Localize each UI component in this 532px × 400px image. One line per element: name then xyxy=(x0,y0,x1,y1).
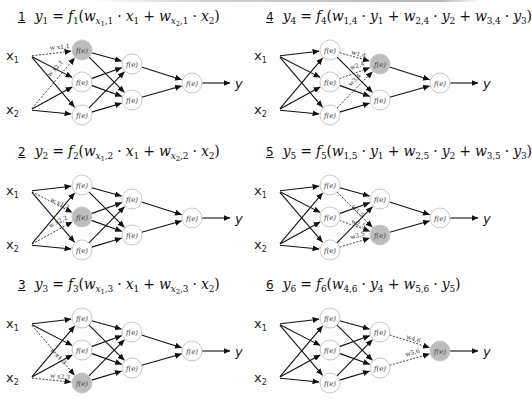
input-label-x2: x2 xyxy=(254,237,267,254)
edge xyxy=(32,325,72,346)
input-label-x2: x2 xyxy=(6,237,19,254)
edge xyxy=(92,371,122,380)
input-label-x1: x1 xyxy=(6,48,19,65)
weight-label: w x1,2 xyxy=(50,196,71,211)
neuron-function-label: f(e) xyxy=(373,196,386,204)
weight-label: w2,4 xyxy=(349,59,365,71)
input-label-x2: x2 xyxy=(6,370,19,387)
neuron-function-label: f(e) xyxy=(75,214,88,222)
neuron-function-label: f(e) xyxy=(323,47,336,55)
neuron-function-label: f(e) xyxy=(75,79,88,87)
neuron-function-label: f(e) xyxy=(373,97,386,105)
output-label-y: y xyxy=(482,344,491,359)
edge xyxy=(91,68,121,79)
edge xyxy=(390,202,430,215)
network-diagram-2: w x1,2w x2,2yf(e)f(e)f(e)f(e)f(e)f(e)x1x… xyxy=(0,135,248,268)
neuron-function-label: f(e) xyxy=(323,79,336,87)
edge xyxy=(92,188,122,196)
edge xyxy=(142,86,182,97)
edge xyxy=(280,57,320,78)
neuron-function-label: f(e) xyxy=(75,347,88,355)
panel-step-6: 6 y6 = f6(w4,6 · y4 + w5,6 · y5) w4,6w5,… xyxy=(248,268,496,400)
edge xyxy=(339,353,369,364)
edge xyxy=(142,335,182,348)
input-label-x1: x1 xyxy=(6,316,19,333)
weight-label: w3,5 xyxy=(349,229,365,240)
edge xyxy=(92,321,122,329)
output-label-y: y xyxy=(234,211,243,226)
edge xyxy=(339,336,369,347)
edge xyxy=(91,336,121,347)
neuron-function-label: f(e) xyxy=(433,215,446,223)
panel-step-3: 3 y3 = f3(wx1,3 · x1 + wx2,3 · x2) w x1,… xyxy=(0,268,248,400)
output-label-y: y xyxy=(482,211,491,226)
input-label-x1: x1 xyxy=(6,183,19,200)
edge xyxy=(280,51,319,56)
edge xyxy=(92,53,122,61)
input-label-x1: x1 xyxy=(254,316,267,333)
neuron-function-label: f(e) xyxy=(323,182,336,190)
edge xyxy=(91,203,121,214)
panel-step-4: 4 y4 = f4(w1,4 · y1 + w2,4 · y2 + w3,4 ·… xyxy=(248,0,496,133)
edge xyxy=(390,86,430,97)
neuron-function-label: f(e) xyxy=(323,112,336,120)
edge xyxy=(390,221,430,232)
edge xyxy=(280,192,320,213)
edge xyxy=(91,220,121,231)
edge xyxy=(91,85,121,96)
neuron-function-label: f(e) xyxy=(125,329,138,337)
weighted-edge-highlight xyxy=(340,238,370,247)
network-diagram-6: w4,6w5,6yf(e)f(e)f(e)f(e)f(e)f(e)x1x2 xyxy=(248,268,496,400)
edge xyxy=(280,110,319,114)
neuron-function-label: f(e) xyxy=(75,247,88,255)
edge xyxy=(142,354,182,365)
neuron-function-label: f(e) xyxy=(125,196,138,204)
weight-label: w x2,2 xyxy=(47,214,68,229)
neuron-function-label: f(e) xyxy=(323,315,336,323)
edge xyxy=(142,202,182,215)
neuron-function-label: f(e) xyxy=(323,214,336,222)
panel-step-1: 1 y1 = f1(wx1,1 · x1 + wx2,1 · x2) w x1,… xyxy=(0,0,248,133)
edge xyxy=(280,186,319,191)
edge xyxy=(340,103,370,112)
edge xyxy=(142,67,182,80)
edge xyxy=(32,326,74,376)
edge xyxy=(280,378,319,382)
neuron-function-label: f(e) xyxy=(323,347,336,355)
neuron-function-label: f(e) xyxy=(185,80,198,88)
neuron-function-label: f(e) xyxy=(75,112,88,120)
edge xyxy=(142,221,182,232)
output-label-y: y xyxy=(234,344,243,359)
weight-label: w4,6 xyxy=(406,333,422,344)
network-diagram-5: w1,5w2,5w3,5yf(e)f(e)f(e)f(e)f(e)f(e)x1x… xyxy=(248,135,496,268)
neuron-function-label: f(e) xyxy=(75,47,88,55)
weight-label: w x2,3 xyxy=(50,372,71,381)
neuron-function-label: f(e) xyxy=(433,80,446,88)
input-label-x2: x2 xyxy=(254,370,267,387)
neuron-function-label: f(e) xyxy=(75,182,88,190)
neuron-function-label: f(e) xyxy=(125,97,138,105)
edge xyxy=(32,245,71,249)
weight-label: w x1,1 xyxy=(49,42,70,51)
edge xyxy=(340,321,370,329)
edge xyxy=(92,103,122,112)
weight-label: w1,4 xyxy=(351,48,367,59)
output-label-y: y xyxy=(234,76,243,91)
weight-label: w5,6 xyxy=(404,347,420,358)
output-label-y: y xyxy=(482,76,491,91)
neuron-function-label: f(e) xyxy=(433,348,446,356)
neuron-function-label: f(e) xyxy=(373,329,386,337)
input-label-x1: x1 xyxy=(254,183,267,200)
neuron-function-label: f(e) xyxy=(373,232,386,240)
edge xyxy=(92,238,122,247)
neuron-function-label: f(e) xyxy=(323,247,336,255)
neuron-function-label: f(e) xyxy=(323,380,336,388)
neuron-function-label: f(e) xyxy=(373,365,386,373)
network-diagram-4: w1,4w2,4w3,4yf(e)f(e)f(e)f(e)f(e)f(e)x1x… xyxy=(248,0,496,133)
edge xyxy=(390,67,430,80)
edge xyxy=(32,319,71,324)
edge xyxy=(91,353,121,364)
panel-step-5: 5 y5 = f5(w1,5 · y1 + w2,5 · y2 + w3,5 ·… xyxy=(248,135,496,268)
input-label-x2: x2 xyxy=(6,102,19,119)
neuron-function-label: f(e) xyxy=(125,232,138,240)
